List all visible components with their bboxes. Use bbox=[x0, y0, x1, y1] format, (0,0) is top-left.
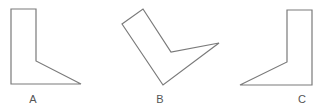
shape-a bbox=[11, 9, 81, 84]
shape-b bbox=[122, 9, 219, 85]
label-b: B bbox=[156, 93, 163, 105]
label-a: A bbox=[29, 93, 36, 105]
shape-c bbox=[240, 10, 312, 85]
label-c: C bbox=[298, 93, 306, 105]
